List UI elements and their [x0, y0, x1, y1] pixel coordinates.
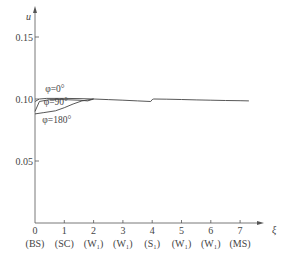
x-tick-sublabel: (SC) [55, 238, 74, 250]
x-tick-label: 7 [238, 225, 243, 236]
x-tick-label: 5 [179, 225, 184, 236]
y-axis-arrow-icon [33, 6, 37, 13]
annotation-label: φ=180° [42, 115, 71, 125]
x-tick-label: 0 [33, 225, 38, 236]
ticks: 0(BS)1(SC)2(W₁)3(W₁)4(S₁)5(W₁)6(W₁)7(MS)… [16, 32, 251, 251]
x-tick-label: 3 [120, 225, 125, 236]
x-tick-label: 1 [62, 225, 67, 236]
y-tick-label: 0.05 [16, 156, 34, 167]
x-tick-sublabel: (W₁) [201, 238, 221, 250]
y-tick-label: 0.10 [16, 94, 34, 105]
x-tick-sublabel: (MS) [230, 238, 251, 250]
x-tick-sublabel: (W₁) [84, 238, 104, 250]
x-tick-sublabel: (W₁) [172, 238, 192, 250]
x-tick-sublabel: (S₁) [144, 238, 160, 250]
x-tick-label: 6 [208, 225, 213, 236]
chart: ξ u 0(BS)1(SC)2(W₁)3(W₁)4(S₁)5(W₁)6(W₁)7… [0, 0, 287, 260]
x-axis-arrow-icon [257, 221, 264, 225]
x-tick-label: 4 [150, 225, 155, 236]
y-tick-label: 0.15 [16, 32, 34, 43]
annotations: φ=0°φ=90°φ=180° [42, 84, 71, 125]
x-axis-label: ξ [272, 224, 277, 236]
x-tick-sublabel: (W₁) [113, 238, 133, 250]
annotation-label: φ=0° [45, 84, 65, 94]
annotation-label: φ=90° [44, 97, 68, 107]
y-axis-label: u [26, 11, 31, 22]
x-tick-label: 2 [91, 225, 96, 236]
x-tick-sublabel: (BS) [26, 238, 45, 250]
